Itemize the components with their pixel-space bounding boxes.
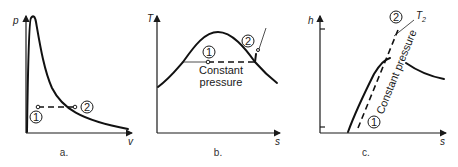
state-2-label: 2	[393, 11, 399, 23]
t-axis-label: T	[147, 13, 154, 24]
state-2-label: 2	[84, 101, 90, 113]
h-axis-label: h	[308, 15, 314, 26]
p-axis-label: p	[12, 15, 19, 26]
saturated-vapor-curve	[406, 63, 444, 79]
annotation-pressure: pressure	[200, 76, 243, 88]
s-axis-label: s	[275, 136, 280, 147]
t2-label: T2	[416, 10, 426, 23]
panel-a-caption: a.	[60, 147, 68, 158]
state-point-1	[36, 105, 40, 109]
state-1-label: 1	[33, 111, 39, 123]
superheat-segment	[255, 54, 256, 62]
panel-a-pv-diagram: p v 1 2 a.	[12, 15, 134, 158]
superheat-arrow-line	[258, 28, 266, 52]
panel-b-ts-diagram: T s 1 2 Constant pressure b.	[147, 13, 280, 158]
state-point-2	[257, 49, 260, 52]
state-2-label: 2	[245, 35, 251, 47]
state-1-label: 1	[371, 116, 377, 128]
panel-b-caption: b.	[214, 147, 222, 158]
s-axis-label: s	[440, 136, 445, 147]
state-1-label: 1	[206, 46, 212, 58]
figure-canvas: p v 1 2 a. T s 1 2 Constant pressure b.	[0, 0, 458, 167]
panel-c-hs-diagram: h s 1 2 T2 Constant pressure c.	[308, 10, 446, 158]
annotation-constant: Constant	[199, 64, 243, 76]
state-point-2	[73, 105, 77, 109]
panel-c-caption: c.	[362, 147, 370, 158]
saturation-curve	[27, 16, 128, 132]
v-axis-label: v	[128, 136, 134, 147]
